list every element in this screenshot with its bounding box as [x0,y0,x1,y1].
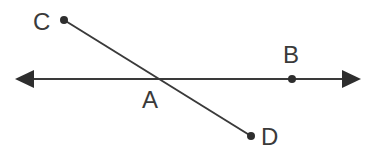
point-c [60,16,68,24]
label-c: C [33,10,50,34]
left-arrow-icon [15,70,34,88]
point-d [247,132,255,140]
diagram-svg [0,0,370,158]
label-d: D [261,125,278,149]
label-a: A [142,88,158,112]
label-b: B [283,43,299,67]
point-b [288,75,296,83]
right-arrow-icon [342,70,361,88]
geometry-diagram: C A B D [0,0,370,158]
